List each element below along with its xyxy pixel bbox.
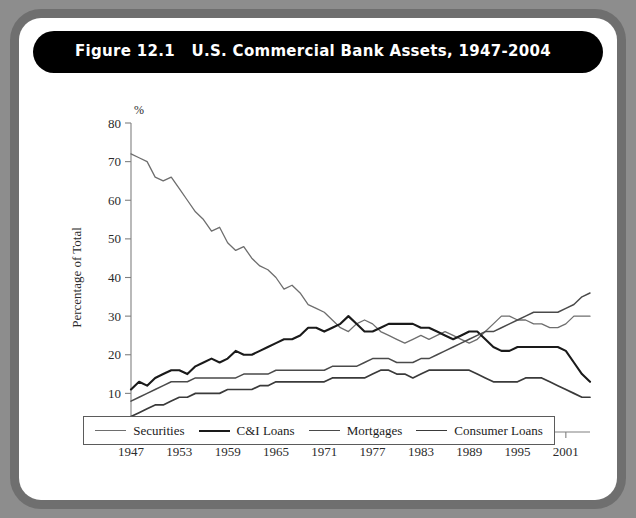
y-axis-tick-label: 80: [108, 116, 121, 131]
y-axis-tick-label: 40: [108, 270, 121, 285]
figure-frame: Figure 12.1 U.S. Commercial Bank Assets,…: [0, 0, 636, 518]
legend-line-swatch: [95, 430, 126, 431]
x-axis-tick-label: 1977: [360, 444, 387, 459]
x-axis-tick-label: 1953: [166, 444, 192, 459]
legend-line-swatch: [309, 430, 340, 431]
y-axis-tick-label: 50: [108, 231, 121, 246]
legend-item-label: Securities: [133, 423, 184, 439]
x-axis-tick-label: 1971: [311, 444, 337, 459]
legend-item: C&I Loans: [199, 423, 295, 439]
legend-item-label: Mortgages: [347, 423, 403, 439]
figure-title-bar: Figure 12.1 U.S. Commercial Bank Assets,…: [33, 31, 603, 73]
y-axis-tick-label: 10: [108, 386, 121, 401]
legend-item-label: Consumer Loans: [454, 423, 542, 439]
x-axis-tick-label: 1947: [118, 444, 145, 459]
y-axis-tick-label: 60: [108, 193, 121, 208]
y-axis-tick-label: 70: [108, 154, 121, 169]
legend-item-label: C&I Loans: [237, 423, 295, 439]
x-axis-tick-label: 1995: [505, 444, 531, 459]
y-axis-tick-label: 30: [108, 309, 121, 324]
legend-item: Consumer Loans: [416, 423, 542, 439]
series-line-securities: [131, 154, 590, 343]
legend-line-swatch: [199, 430, 230, 432]
legend-item: Securities: [95, 423, 184, 439]
y-axis-tick-label: 20: [108, 347, 121, 362]
figure-title: Figure 12.1 U.S. Commercial Bank Assets,…: [75, 42, 551, 60]
y-axis-title: Percentage of Total: [69, 227, 84, 328]
series-line-consumer-loans: [131, 370, 590, 416]
legend-line-swatch: [416, 430, 447, 431]
x-axis-tick-label: 1983: [408, 444, 434, 459]
x-axis-tick-label: 1965: [263, 444, 289, 459]
x-axis-tick-label: 1959: [215, 444, 241, 459]
legend-item: Mortgages: [309, 423, 403, 439]
y-axis-unit-label: %: [134, 103, 144, 117]
chart-legend: SecuritiesC&I LoansMortgagesConsumer Loa…: [83, 416, 555, 445]
x-axis-tick-label: 1989: [456, 444, 482, 459]
x-axis-tick-label: 2001: [553, 444, 579, 459]
figure-card: Figure 12.1 U.S. Commercial Bank Assets,…: [19, 18, 617, 500]
